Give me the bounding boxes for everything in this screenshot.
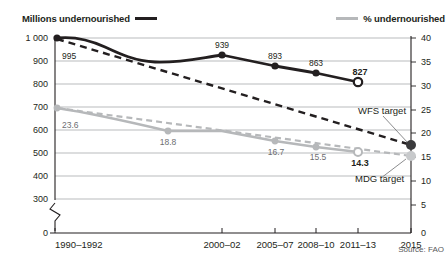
ytick-label: 400 bbox=[33, 171, 48, 181]
data-labels-millions: 995 939 893 863 827 bbox=[62, 40, 368, 77]
y2tick-label: 20 bbox=[421, 128, 431, 138]
y-axis-right-labels: 40 35 30 25 20 15 10 5 0 bbox=[421, 33, 431, 238]
ytick-label: 700 bbox=[33, 102, 48, 112]
ytick-label: 1 000 bbox=[25, 33, 48, 43]
endpoint-wfs-target-marker bbox=[406, 140, 416, 150]
data-label: 15.5 bbox=[310, 152, 327, 162]
ytick-label: 0 bbox=[43, 228, 48, 238]
ytick-label: 800 bbox=[33, 79, 48, 89]
data-point-marker bbox=[53, 34, 60, 41]
ytick-label: 500 bbox=[33, 148, 48, 158]
data-point-marker bbox=[272, 138, 279, 145]
data-point-marker bbox=[54, 105, 61, 112]
data-label: 893 bbox=[268, 51, 282, 61]
y-axis-left bbox=[50, 36, 411, 233]
data-point-marker-open bbox=[354, 78, 362, 86]
y-axis-left-labels: 1 000 900 800 700 600 500 400 300 0 bbox=[25, 33, 48, 238]
xtick-label: 1990–1992 bbox=[55, 239, 103, 250]
data-label: 863 bbox=[309, 58, 323, 68]
endpoint-mdg-target-marker bbox=[406, 151, 416, 161]
y2tick-label: 5 bbox=[421, 200, 426, 210]
data-point-marker bbox=[271, 62, 278, 69]
data-label-highlight: 827 bbox=[352, 67, 367, 77]
ytick-label: 300 bbox=[33, 194, 48, 204]
y2tick-label: 25 bbox=[421, 105, 431, 115]
y2tick-label: 30 bbox=[421, 81, 431, 91]
data-point-marker bbox=[312, 69, 319, 76]
chart-root: Millions undernourished % undernourished bbox=[0, 0, 448, 269]
data-point-marker bbox=[165, 128, 172, 135]
chart-canvas: 1 000 900 800 700 600 500 400 300 0 40 3… bbox=[0, 0, 448, 269]
source-note: Source: FAO bbox=[398, 245, 444, 254]
data-point-marker bbox=[313, 144, 320, 151]
y2tick-label: 35 bbox=[421, 57, 431, 67]
xtick-label: 2008–10 bbox=[298, 239, 335, 250]
mdg-target-annotation: MDG target bbox=[355, 173, 404, 184]
data-label: 18.8 bbox=[160, 137, 177, 147]
wfs-target-annotation: WFS target bbox=[358, 105, 406, 116]
y-axis-right bbox=[411, 36, 416, 233]
data-labels-percent: 23.6 18.8 16.7 15.5 14.3 bbox=[62, 120, 369, 168]
data-label: 23.6 bbox=[62, 120, 79, 130]
data-label: 939 bbox=[215, 40, 229, 50]
data-point-marker-open bbox=[354, 148, 362, 156]
ytick-label: 900 bbox=[33, 56, 48, 66]
xtick-label: 2000–02 bbox=[204, 239, 241, 250]
data-label: 16.7 bbox=[268, 147, 285, 157]
data-label-highlight: 14.3 bbox=[351, 158, 369, 168]
data-point-marker bbox=[218, 51, 225, 58]
data-label: 995 bbox=[62, 51, 76, 61]
wfs-target-leader-line bbox=[383, 116, 408, 143]
y2tick-label: 15 bbox=[421, 152, 431, 162]
x-axis-labels: 1990–1992 2000–02 2005–07 2008–10 2011–1… bbox=[55, 239, 422, 250]
xtick-label: 2011–13 bbox=[340, 239, 376, 250]
xtick-label: 2005–07 bbox=[257, 239, 294, 250]
y2tick-label: 40 bbox=[421, 33, 431, 43]
y2tick-label: 0 bbox=[421, 228, 426, 238]
ytick-label: 600 bbox=[33, 125, 48, 135]
y2tick-label: 10 bbox=[421, 176, 431, 186]
x-axis-ticks bbox=[55, 228, 411, 233]
series-wfs-target-line bbox=[57, 39, 411, 145]
